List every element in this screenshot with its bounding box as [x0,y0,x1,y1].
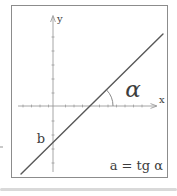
formula-label: a = tg α [110,158,164,173]
x-axis-label: x [159,94,165,105]
figure-frame [12,6,168,178]
plot-svg: y x b α a = tg α [0,0,177,196]
angle-label: α [125,76,141,102]
scan-artifact [0,146,3,148]
figure-panel: y x b α a = tg α [0,0,177,196]
bottom-divider [0,188,177,191]
intercept-label: b [37,131,45,146]
y-axis-label: y [56,13,63,24]
